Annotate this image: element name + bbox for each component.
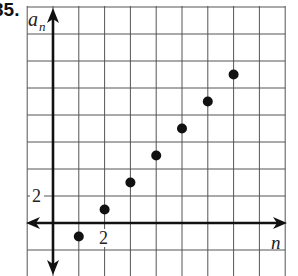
y-tick-label: 2 (32, 186, 41, 206)
data-point (74, 232, 84, 242)
y-axis-label-subscript: n (39, 19, 46, 34)
data-point (100, 205, 110, 215)
data-point (229, 70, 239, 80)
data-point (151, 151, 161, 161)
y-axis-label: a (28, 8, 38, 30)
data-point (203, 97, 213, 107)
grid-lines (27, 6, 285, 276)
data-point (177, 124, 187, 134)
sequence-scatter-plot: a n n 2 2 (0, 0, 298, 276)
x-tick-label: 2 (99, 228, 108, 248)
x-axis-label: n (271, 232, 281, 253)
data-point (125, 178, 135, 188)
